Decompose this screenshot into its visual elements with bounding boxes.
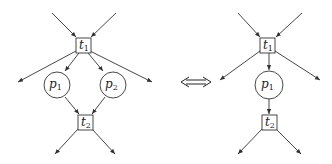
arc-t2-to-out-bottom-right — [276, 129, 301, 154]
arc-in-left-to-t1 — [52, 13, 76, 37]
right-net: t1 p1 t2 — [220, 13, 320, 154]
petri-net-diagram: t1 p1 p2 t2 t1 — [0, 0, 332, 164]
transition-t2: t2 — [78, 115, 93, 130]
left-net: t1 p1 p2 t2 — [18, 13, 152, 154]
arc-in-left-to-t1 — [238, 13, 260, 37]
arc-in-right-to-t1 — [276, 13, 302, 37]
arc-in-right-to-t1 — [91, 13, 116, 37]
transition-t1: t1 — [260, 38, 275, 53]
place-p1: p1 — [255, 71, 283, 99]
arc-t1-to-p2 — [88, 53, 103, 71]
arc-t2-to-out-bottom-left — [238, 129, 262, 154]
arc-t2-to-out-bottom-right — [92, 129, 115, 154]
place-p1: p1 — [44, 72, 70, 98]
arc-t1-to-out-right — [275, 51, 320, 80]
transition-t2: t2 — [262, 115, 277, 130]
arc-p1-to-t2 — [65, 97, 79, 114]
transition-t1: t1 — [76, 38, 91, 53]
arc-p2-to-t2 — [92, 97, 105, 114]
place-p2: p2 — [100, 72, 126, 98]
arc-t1-to-out-left — [220, 51, 260, 80]
arc-t2-to-out-bottom-left — [55, 129, 78, 154]
equivalence-arrow-icon — [181, 77, 211, 87]
